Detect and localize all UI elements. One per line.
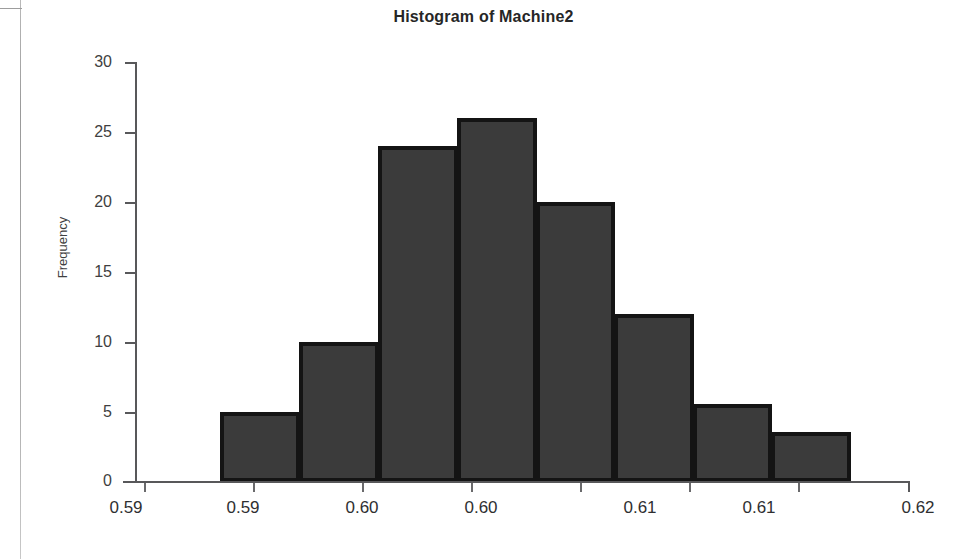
y-axis-label-15: 15 xyxy=(78,264,112,280)
x-axis-label-7: 0.62 xyxy=(878,498,958,518)
y-axis-label-25: 25 xyxy=(78,124,112,140)
x-axis-line xyxy=(123,481,910,483)
y-tick-10 xyxy=(125,342,136,344)
x-tick-2 xyxy=(253,483,255,492)
y-axis-label-20: 20 xyxy=(78,194,112,210)
x-axis-label-3: 0.60 xyxy=(322,498,402,518)
histogram-bar-6[interactable] xyxy=(614,314,694,482)
y-axis-label-10: 10 xyxy=(78,334,112,350)
histogram-bar-2[interactable] xyxy=(299,342,379,482)
y-tick-20 xyxy=(125,202,136,204)
histogram-bar-5[interactable] xyxy=(536,202,615,482)
x-tick-1 xyxy=(144,483,146,492)
y-tick-5 xyxy=(125,412,136,414)
y-axis-label-30: 30 xyxy=(78,54,112,70)
y-tick-30 xyxy=(125,62,136,64)
histogram-bar-7[interactable] xyxy=(693,404,772,482)
histogram-bar-1[interactable] xyxy=(220,412,300,482)
y-axis-title: Frequency xyxy=(55,188,70,308)
x-tick-4 xyxy=(471,483,473,492)
x-axis-end-tick xyxy=(908,481,910,492)
x-tick-3 xyxy=(362,483,364,492)
y-tick-15 xyxy=(125,272,136,274)
x-tick-7 xyxy=(798,483,800,492)
chart-title: Histogram of Machine2 xyxy=(0,8,967,26)
x-axis-label-5: 0.61 xyxy=(600,498,680,518)
x-tick-6 xyxy=(689,483,691,492)
x-axis-label-1: 0.59 xyxy=(86,498,166,518)
x-tick-5 xyxy=(580,483,582,492)
x-axis-label-2: 0.59 xyxy=(203,498,283,518)
x-axis-label-4: 0.60 xyxy=(441,498,521,518)
y-tick-25 xyxy=(125,132,136,134)
histogram-bar-8[interactable] xyxy=(771,432,851,482)
histogram-bar-3[interactable] xyxy=(378,146,458,482)
y-axis-label-5: 5 xyxy=(78,404,112,420)
histogram-chart: Histogram of Machine2 30 25 20 15 10 5 0… xyxy=(0,0,967,559)
y-axis-label-0: 0 xyxy=(78,473,112,489)
x-axis-label-6: 0.61 xyxy=(719,498,799,518)
histogram-bar-4[interactable] xyxy=(457,118,537,482)
